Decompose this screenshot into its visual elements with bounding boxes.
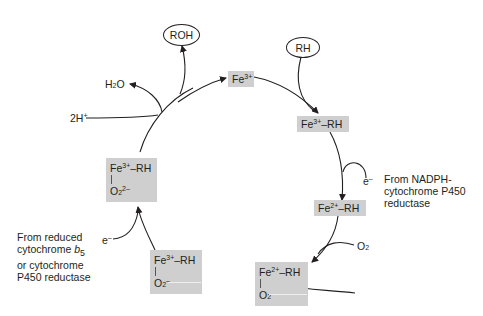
product-roh-label: ROH bbox=[170, 29, 193, 41]
species-fe3-rh-o2-minus: Fe3+–RH O2– bbox=[150, 250, 202, 294]
species-fe3-rh-o2-2minus: Fe3+–RH O22– bbox=[106, 158, 157, 202]
oxygen-label: O2 bbox=[357, 240, 369, 252]
protons-label: 2H+ bbox=[70, 112, 88, 124]
electron-1-label: e– bbox=[363, 175, 373, 187]
product-roh-oval: ROH bbox=[163, 24, 200, 46]
substrate-rh-oval: RH bbox=[286, 37, 320, 58]
cytochrome-b5-note: From reduced cytochrome b5 or cytochrome… bbox=[17, 231, 91, 283]
species-fe2-rh-o2: Fe2+–RH O2 bbox=[255, 262, 308, 306]
electron-2-label: e– bbox=[102, 234, 112, 246]
highlight-line bbox=[168, 282, 201, 283]
highlight-line bbox=[269, 294, 307, 295]
species-fe3: Fe3+ bbox=[228, 71, 254, 87]
species-fe3-rh: Fe3+–RH bbox=[297, 116, 349, 132]
water-label: H2O bbox=[105, 78, 125, 90]
bond-line bbox=[155, 267, 156, 276]
substrate-rh-label: RH bbox=[295, 42, 310, 54]
p450-cycle-diagram: ROH RH Fe3+ Fe3+–RH Fe2+–RH Fe2+–RH O2 F… bbox=[0, 0, 483, 316]
bond-line bbox=[260, 279, 261, 288]
nadph-reductase-note: From NADPH- cytochrome P450 reductase bbox=[384, 173, 466, 209]
species-fe2-rh: Fe2+–RH bbox=[314, 200, 366, 216]
bond-line bbox=[111, 175, 112, 184]
